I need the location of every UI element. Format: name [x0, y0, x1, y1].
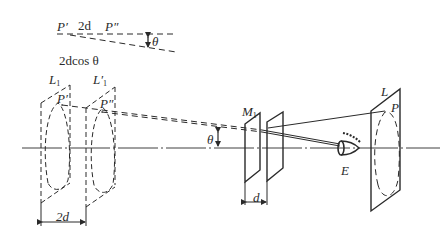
label-2d: 2d: [56, 210, 69, 223]
label-d: d: [253, 191, 260, 204]
inset-p-double-prime-label: P″: [105, 20, 118, 33]
label-P-prime: P′: [57, 92, 68, 105]
inset-theta-label: θ: [152, 35, 158, 48]
source-circle: [375, 112, 400, 196]
path-difference-label: 2dcos θ: [59, 54, 99, 67]
inset-p-prime-label: P′: [57, 20, 68, 33]
label-P: P: [391, 101, 399, 114]
label-theta: θ: [207, 133, 213, 146]
point-P-double-prime: [101, 111, 103, 113]
label-E: E: [341, 164, 349, 177]
interferometer-diagram: [0, 0, 444, 241]
label-L: L: [381, 85, 388, 98]
label-M1: M1: [242, 105, 257, 120]
eye-icon: [338, 133, 360, 155]
label-L1-prime: L′1: [93, 73, 107, 88]
inset-2d-label: 2d: [78, 19, 91, 32]
mirror-M1: [245, 112, 283, 182]
real-rays: [262, 111, 385, 146]
virtual-rays: [62, 105, 262, 132]
label-P-double-prime: P″: [100, 97, 113, 110]
label-L1: L1: [49, 73, 60, 88]
